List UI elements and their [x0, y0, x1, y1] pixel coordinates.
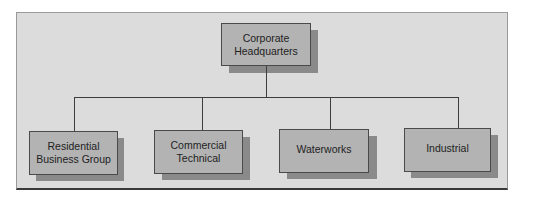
node-commercial-technical: Commercial Technical	[154, 130, 243, 174]
node-label: Industrial	[426, 142, 469, 155]
connector-drop-industrial	[458, 97, 459, 128]
connector-horizontal-bar	[74, 97, 459, 98]
node-label: Residential Business Group	[36, 140, 111, 166]
node-residential-business-group: Residential Business Group	[29, 131, 118, 175]
connector-drop-commercial	[202, 97, 203, 130]
connector-drop-residential	[74, 97, 75, 131]
node-label: Waterworks	[296, 143, 351, 156]
node-label: Commercial Technical	[170, 139, 226, 165]
node-industrial: Industrial	[404, 128, 491, 172]
node-waterworks: Waterworks	[279, 129, 369, 173]
node-corporate-headquarters: Corporate Headquarters	[221, 23, 311, 66]
connector-drop-waterworks	[330, 97, 331, 129]
node-label: Corporate Headquarters	[234, 32, 298, 58]
connector-root-stem	[266, 66, 267, 98]
